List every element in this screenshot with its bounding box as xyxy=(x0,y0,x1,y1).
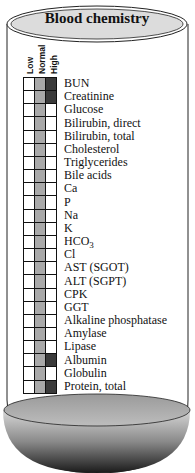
analyte-label: Bilirubin, total xyxy=(64,130,135,143)
cell-high xyxy=(45,222,57,236)
cell-high xyxy=(45,248,57,262)
grid-row xyxy=(23,143,56,156)
cell-high xyxy=(45,116,57,130)
cell-high xyxy=(45,235,57,249)
cell-high xyxy=(45,301,57,315)
analyte-label: Bile acids xyxy=(64,169,112,182)
analyte-label: Bilirubin, direct xyxy=(64,117,141,130)
cell-high xyxy=(45,143,57,157)
analyte-label: AST (SGOT) xyxy=(64,261,129,274)
analyte-label: Protein, total xyxy=(64,380,126,393)
grid-row xyxy=(23,353,56,366)
cell-high xyxy=(45,103,57,117)
grid-row xyxy=(23,261,56,274)
analyte-label: Cl xyxy=(64,248,75,261)
analyte-label: Amylase xyxy=(64,327,107,340)
grid-row xyxy=(23,248,56,261)
cell-high xyxy=(45,314,57,328)
grid-row xyxy=(23,327,56,340)
analyte-label: Albumin xyxy=(64,354,107,367)
cell-high xyxy=(45,380,57,394)
analyte-label: Creatinine xyxy=(64,90,114,103)
analyte-label: P xyxy=(64,196,71,209)
cell-high xyxy=(45,182,57,196)
grid-row xyxy=(23,90,56,103)
analyte-label: ALT (SGPT) xyxy=(64,275,126,288)
analyte-label: Cholesterol xyxy=(64,143,119,156)
analyte-label: Globulin xyxy=(64,367,107,380)
column-header-low: Low xyxy=(23,48,35,74)
analyte-label: Na xyxy=(64,209,78,222)
column-header-high: High xyxy=(47,48,59,74)
grid-row xyxy=(23,380,56,393)
analyte-label: Ca xyxy=(64,182,77,195)
cell-high xyxy=(45,261,57,275)
cell-high xyxy=(45,327,57,341)
cell-high xyxy=(45,209,57,223)
column-header-normal: Normal xyxy=(35,48,47,74)
grid-row xyxy=(23,116,56,129)
grid-row xyxy=(23,274,56,287)
cell-high xyxy=(45,366,57,380)
cell-high xyxy=(45,274,57,288)
cell-high xyxy=(45,169,57,183)
cell-high xyxy=(45,288,57,302)
grid-row xyxy=(23,222,56,235)
grid-row xyxy=(23,301,56,314)
grid-row xyxy=(23,209,56,222)
analyte-label: GGT xyxy=(64,301,89,314)
grid-row xyxy=(23,235,56,248)
cell-high xyxy=(45,195,57,209)
grid-row xyxy=(23,77,56,90)
analyte-label: Glucose xyxy=(64,103,103,116)
grid-row xyxy=(23,195,56,208)
chart-title: Blood chemistry xyxy=(22,10,172,27)
analyte-label: CPK xyxy=(64,288,87,301)
cell-high xyxy=(45,156,57,170)
grid-row xyxy=(23,130,56,143)
cell-high xyxy=(45,130,57,144)
grid-row xyxy=(23,340,56,353)
grid-row xyxy=(23,182,56,195)
grid-row xyxy=(23,169,56,182)
grid-row xyxy=(23,103,56,116)
level-grid xyxy=(23,77,56,393)
grid-row xyxy=(23,156,56,169)
cell-high xyxy=(45,340,57,354)
cell-high xyxy=(45,90,57,104)
analyte-label: Lipase xyxy=(64,340,96,353)
grid-row xyxy=(23,366,56,379)
grid-row xyxy=(23,288,56,301)
cell-high xyxy=(45,77,57,91)
cell-high xyxy=(45,353,57,367)
analyte-label: K xyxy=(64,222,73,235)
grid-row xyxy=(23,314,56,327)
